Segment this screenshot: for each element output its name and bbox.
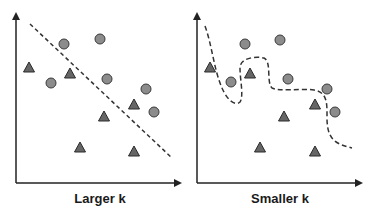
caption-smaller-k: Smaller k bbox=[251, 191, 310, 206]
circle-point bbox=[102, 74, 112, 84]
triangle-point bbox=[255, 142, 266, 152]
knn-decision-boundary-diagram: Larger k Smaller k bbox=[0, 0, 377, 214]
panel-smaller-k: Smaller k bbox=[197, 14, 361, 206]
triangle-point bbox=[279, 111, 290, 121]
circle-point bbox=[149, 107, 159, 117]
data-points bbox=[24, 34, 160, 156]
circle-point bbox=[283, 74, 293, 84]
triangle-point bbox=[310, 146, 321, 156]
panel-larger-k: Larger k bbox=[16, 14, 180, 206]
circle-point bbox=[330, 107, 340, 117]
circle-point bbox=[240, 39, 250, 49]
circle-point bbox=[322, 84, 332, 94]
triangle-point bbox=[99, 111, 110, 121]
triangle-point bbox=[24, 62, 35, 72]
triangle-point bbox=[310, 99, 321, 109]
triangle-point bbox=[245, 68, 256, 78]
triangle-point bbox=[129, 99, 140, 109]
circle-point bbox=[59, 39, 69, 49]
circle-point bbox=[226, 77, 236, 87]
circle-point bbox=[95, 34, 105, 44]
caption-larger-k: Larger k bbox=[74, 191, 126, 206]
circle-point bbox=[141, 84, 151, 94]
triangle-point bbox=[65, 68, 76, 78]
circle-point bbox=[275, 35, 285, 45]
circle-point bbox=[46, 78, 56, 88]
data-points bbox=[205, 35, 341, 156]
triangle-point bbox=[129, 146, 140, 156]
triangle-point bbox=[75, 142, 86, 152]
triangle-point bbox=[205, 62, 216, 72]
